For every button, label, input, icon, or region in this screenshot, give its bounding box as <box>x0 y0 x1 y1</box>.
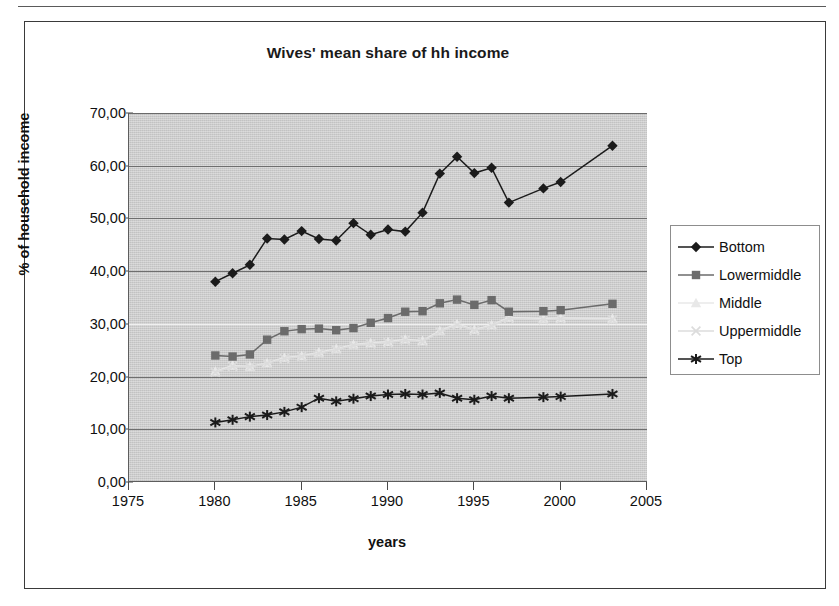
x-axis-tick-label: 2000 <box>525 493 595 509</box>
legend-symbol <box>677 324 715 338</box>
square-marker-icon <box>436 299 444 307</box>
legend-item-lowermiddle[interactable]: Lowermiddle <box>677 261 819 289</box>
square-marker-icon <box>692 271 700 279</box>
legend-item-label: Middle <box>719 295 762 311</box>
square-marker-icon <box>315 324 323 332</box>
diamond-marker-icon <box>538 183 548 193</box>
top-divider-rule <box>18 6 826 7</box>
diamond-marker-icon <box>504 197 514 207</box>
y-axis-tick-label: 30,00 <box>42 316 126 332</box>
square-marker-icon <box>211 351 219 359</box>
series-middle <box>210 312 618 375</box>
x-axis-tick-mark <box>301 482 302 490</box>
square-marker-icon <box>556 306 564 314</box>
square-marker-icon <box>228 352 236 360</box>
x-axis-tick-mark <box>214 482 215 490</box>
x-axis: 1975198019851990199520002005 <box>128 482 646 512</box>
diamond-marker-icon <box>555 177 565 187</box>
x-axis-tick-mark <box>387 482 388 490</box>
series-line <box>215 319 612 373</box>
series-line <box>215 318 612 372</box>
legend-item-label: Uppermiddle <box>719 323 801 339</box>
x-axis-title: years <box>128 534 646 550</box>
square-marker-icon <box>401 308 409 316</box>
legend-item-uppermiddle[interactable]: Uppermiddle <box>677 317 819 345</box>
x-axis-tick-label: 1990 <box>352 493 422 509</box>
x-axis-tick-mark <box>646 482 647 490</box>
diamond-marker-icon <box>314 234 324 244</box>
legend-symbol <box>677 352 715 366</box>
y-axis-tick-label: 20,00 <box>42 369 126 385</box>
legend-item-top[interactable]: Top <box>677 345 819 373</box>
square-marker-icon <box>384 314 392 322</box>
diamond-marker-icon <box>383 224 393 234</box>
series-top <box>210 388 617 428</box>
square-marker-icon <box>280 327 288 335</box>
square-marker-icon <box>539 307 547 315</box>
diamond-marker-icon <box>296 226 306 236</box>
diamond-marker-icon <box>210 276 220 286</box>
series-layer <box>129 113 647 482</box>
diamond-marker-icon <box>486 163 496 173</box>
legend-symbol <box>677 268 715 282</box>
x-axis-tick-label: 2005 <box>611 493 681 509</box>
diamond-marker-icon <box>691 242 701 252</box>
star-marker-icon <box>677 352 715 366</box>
y-axis-tick-label: 70,00 <box>42 105 126 121</box>
diamond-marker-icon <box>279 234 289 244</box>
square-marker-icon <box>367 319 375 327</box>
legend-item-bottom[interactable]: Bottom <box>677 233 819 261</box>
x-axis-tick-label: 1975 <box>93 493 163 509</box>
y-axis-title: % of household income <box>16 64 32 324</box>
triangle-marker-icon <box>677 296 715 310</box>
square-marker-icon <box>246 350 254 358</box>
x-axis-tick-mark <box>560 482 561 490</box>
series-uppermiddle <box>211 314 617 377</box>
x-axis-tick-label: 1985 <box>266 493 336 509</box>
square-marker-icon <box>487 296 495 304</box>
x-marker-icon <box>677 324 715 338</box>
y-axis-tick-label: 0,00 <box>42 474 126 490</box>
legend-item-label: Lowermiddle <box>719 267 801 283</box>
x-axis-tick-mark <box>128 482 129 490</box>
legend-item-middle[interactable]: Middle <box>677 289 819 317</box>
series-line <box>215 300 612 357</box>
y-axis-tick-label: 10,00 <box>42 421 126 437</box>
diamond-marker-icon <box>366 230 376 240</box>
diamond-marker-icon <box>245 260 255 270</box>
diamond-marker-icon <box>227 268 237 278</box>
legend-item-label: Top <box>719 351 742 367</box>
y-axis-tick-label: 40,00 <box>42 263 126 279</box>
series-bottom <box>210 140 618 286</box>
square-marker-icon <box>505 308 513 316</box>
x-axis-tick-mark <box>473 482 474 490</box>
diamond-marker-icon <box>262 233 272 243</box>
x-axis-tick-label: 1980 <box>179 493 249 509</box>
square-marker-icon <box>677 268 715 282</box>
legend-symbol <box>677 240 715 254</box>
legend-symbol <box>677 296 715 310</box>
y-axis: 0,0010,0020,0030,0040,0050,0060,0070,00 <box>34 113 126 482</box>
y-axis-tick-label: 50,00 <box>42 210 126 226</box>
x-axis-tick-label: 1995 <box>438 493 508 509</box>
chart-title: Wives' mean share of hh income <box>128 44 648 62</box>
legend-item-label: Bottom <box>719 239 765 255</box>
series-line <box>215 146 612 282</box>
triangle-marker-icon <box>400 334 410 343</box>
square-marker-icon <box>349 324 357 332</box>
plot-area <box>128 113 647 482</box>
diamond-marker-icon <box>607 140 617 150</box>
square-marker-icon <box>470 301 478 309</box>
square-marker-icon <box>453 295 461 303</box>
square-marker-icon <box>263 335 271 343</box>
series-lowermiddle <box>211 295 617 360</box>
star-marker-icon <box>297 402 307 412</box>
diamond-marker-icon <box>677 240 715 254</box>
legend: BottomLowermiddleMiddleUppermiddleTop <box>670 225 820 375</box>
square-marker-icon <box>608 300 616 308</box>
square-marker-icon <box>297 325 305 333</box>
y-axis-tick-label: 60,00 <box>42 158 126 174</box>
square-marker-icon <box>418 307 426 315</box>
series-line <box>215 393 612 423</box>
square-marker-icon <box>332 326 340 334</box>
